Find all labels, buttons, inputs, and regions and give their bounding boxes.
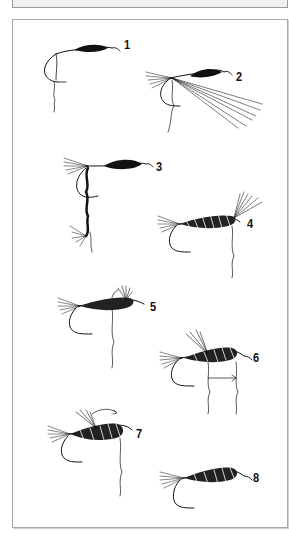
step-1-figure [44,45,120,112]
step-5-figure [58,286,144,368]
step-4-figure [158,192,262,278]
step-label-3: 3 [156,159,162,174]
step-label-6: 6 [253,350,259,365]
step-6-figure [160,330,252,414]
step-2-figure [146,69,262,132]
fly-tying-illustration [0,0,289,541]
step-label-1: 1 [124,37,130,52]
step-8-figure [160,468,252,508]
step-7-figure [48,409,132,496]
step-3-figure [64,158,153,252]
step-label-5: 5 [150,299,156,314]
step-label-8: 8 [253,470,259,485]
step-label-2: 2 [236,69,242,84]
step-label-4: 4 [247,216,253,231]
step-label-7: 7 [136,426,142,441]
